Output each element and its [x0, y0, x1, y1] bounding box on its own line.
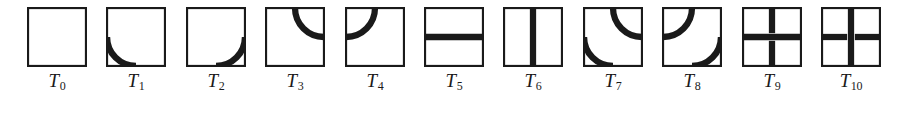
tile-label-subscript: 4	[378, 79, 384, 93]
tile-cell-t8: T8	[661, 7, 723, 111]
tile-label-base: T	[840, 70, 851, 91]
tile-label-subscript: 0	[60, 79, 66, 93]
tile-label-subscript: 9	[775, 79, 781, 93]
tile-cell-t4: T4	[344, 7, 406, 111]
tile-label-t8: T8	[661, 71, 723, 92]
tile-label-subscript: 7	[616, 79, 622, 93]
tile-glyph-t7	[583, 7, 643, 67]
tile-label-subscript: 3	[298, 79, 304, 93]
tile-label-t2: T2	[185, 71, 247, 92]
tile-label-t3: T3	[264, 71, 326, 92]
wang-tile-figure: T0T1T2T3T4T5T6T7T8T9T10	[0, 0, 908, 114]
tile-cell-t0: T0	[26, 7, 88, 111]
tile-label-base: T	[525, 70, 536, 91]
tile-glyph-t5	[424, 7, 484, 67]
tile-label-t6: T6	[502, 71, 564, 92]
tile-label-base: T	[764, 70, 775, 91]
tile-label-base: T	[605, 70, 616, 91]
tile-label-subscript: 5	[457, 79, 463, 93]
tile-label-t5: T5	[423, 71, 485, 92]
tile-cell-t7: T7	[582, 7, 644, 111]
tile-cell-t2: T2	[185, 7, 247, 111]
tile-glyph-t9	[742, 7, 802, 67]
tile-label-subscript: 6	[536, 79, 542, 93]
tile-glyph-t4	[345, 7, 405, 67]
tile-cell-t6: T6	[502, 7, 564, 111]
tile-label-base: T	[367, 70, 378, 91]
tile-label-base: T	[287, 70, 298, 91]
tile-glyph-t2	[186, 7, 246, 67]
tile-cell-t3: T3	[264, 7, 326, 111]
tile-label-subscript: 10	[851, 79, 863, 93]
tile-glyph-t1	[106, 7, 166, 67]
tile-label-t10: T10	[820, 71, 882, 92]
tile-label-base: T	[684, 70, 695, 91]
tile-glyph-t6	[503, 7, 563, 67]
tile-label-t9: T9	[741, 71, 803, 92]
tile-label-base: T	[49, 70, 60, 91]
tile-label-subscript: 8	[695, 79, 701, 93]
tile-label-t7: T7	[582, 71, 644, 92]
tile-glyph-t3	[265, 7, 325, 67]
tile-glyph-t0	[27, 7, 87, 67]
tile-cell-t5: T5	[423, 7, 485, 111]
tile-label-subscript: 1	[139, 79, 145, 93]
tile-label-t0: T0	[26, 71, 88, 92]
tile-label-t1: T1	[105, 71, 167, 92]
tile-cell-t10: T10	[820, 7, 882, 111]
tile-label-subscript: 2	[219, 79, 225, 93]
tile-label-base: T	[208, 70, 219, 91]
tile-label-base: T	[128, 70, 139, 91]
tile-glyph-t10	[821, 7, 881, 67]
tile-label-t4: T4	[344, 71, 406, 92]
tile-cell-t9: T9	[741, 7, 803, 111]
tile-cell-t1: T1	[105, 7, 167, 111]
tile-glyph-t8	[662, 7, 722, 67]
tile-label-base: T	[446, 70, 457, 91]
